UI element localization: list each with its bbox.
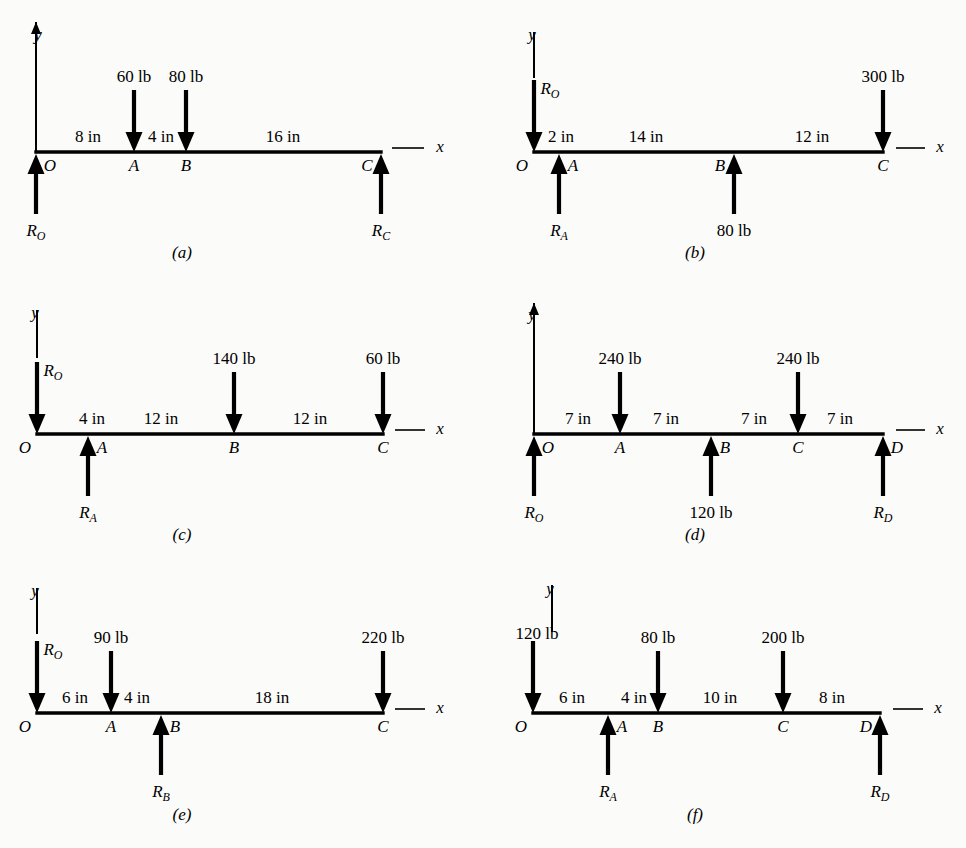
beam-diagrams-svg: yx8 in4 in16 inOABCRO60 lb80 lbRC(a)yx2 …	[0, 0, 966, 848]
point-label-e-A: A	[105, 717, 117, 736]
dimension-label-a-2: 16 in	[266, 127, 301, 146]
force-f-D-label: RD	[869, 782, 889, 804]
panel-e: yx6 in4 in18 inOABCRO90 lbRB220 lb(e)	[19, 581, 444, 824]
x-axis-label-b: x	[935, 137, 944, 156]
force-f-O-head	[525, 693, 542, 713]
force-a-C-label: RC	[371, 221, 391, 243]
force-f-B-label: 80 lb	[641, 628, 675, 647]
force-b-A-label: RA	[549, 221, 568, 243]
force-d-B-head	[703, 436, 720, 456]
dimension-label-c-2: 12 in	[293, 409, 328, 428]
force-e-B-head	[153, 715, 170, 735]
force-d-C-label: 240 lb	[777, 349, 820, 368]
force-b-C-label: 300 lb	[862, 67, 905, 86]
panel-caption-f: (f)	[687, 805, 703, 824]
force-d-C-head	[790, 414, 807, 434]
panel-caption-e: (e)	[173, 805, 192, 824]
x-axis-label-d: x	[935, 419, 944, 438]
point-label-a-A: A	[128, 156, 140, 175]
force-b-A-head	[551, 154, 568, 174]
panel-caption-d: (d)	[685, 525, 705, 544]
y-axis-label-a: y	[32, 25, 42, 44]
point-label-b-C: C	[877, 156, 889, 175]
panel-caption-b: (b)	[685, 243, 705, 262]
force-f-B-head	[650, 693, 667, 713]
point-label-d-B: B	[720, 438, 731, 457]
point-label-c-A: A	[96, 438, 108, 457]
point-label-d-A: A	[614, 438, 626, 457]
force-d-B-label: 120 lb	[690, 503, 733, 522]
force-e-O-head	[29, 693, 46, 713]
force-f-C-label: 200 lb	[762, 628, 805, 647]
point-label-a-B: B	[181, 156, 192, 175]
point-label-e-C: C	[377, 717, 389, 736]
point-label-f-B: B	[653, 717, 664, 736]
force-e-A-head	[103, 693, 120, 713]
dimension-label-e-2: 18 in	[255, 688, 290, 707]
point-label-e-O: O	[19, 717, 31, 736]
force-a-C-head	[373, 154, 390, 174]
force-a-A-label: 60 lb	[117, 67, 151, 86]
force-e-A-label: 90 lb	[94, 628, 128, 647]
dimension-label-a-0: 8 in	[75, 127, 101, 146]
point-label-c-B: B	[229, 438, 240, 457]
panel-caption-a: (a)	[172, 243, 192, 262]
force-c-O-head	[29, 414, 46, 434]
point-label-d-D: D	[890, 438, 904, 457]
panel-d: yx7 in7 in7 in7 inOABCDRO240 lb120 lb240…	[523, 303, 944, 544]
force-a-A-head	[126, 132, 143, 152]
point-label-c-C: C	[377, 438, 389, 457]
force-b-O-head	[526, 132, 543, 152]
point-label-b-O: O	[516, 156, 528, 175]
force-c-A-label: RA	[78, 503, 97, 525]
dimension-label-d-3: 7 in	[827, 409, 853, 428]
x-axis-label-c: x	[435, 419, 444, 438]
point-label-d-O: O	[542, 438, 554, 457]
point-label-a-O: O	[44, 156, 56, 175]
force-e-C-label: 220 lb	[362, 628, 405, 647]
point-label-a-C: C	[361, 156, 373, 175]
dimension-label-b-2: 12 in	[795, 127, 830, 146]
x-axis-label-f: x	[933, 698, 942, 717]
force-d-A-head	[612, 414, 629, 434]
dimension-label-c-1: 12 in	[144, 409, 179, 428]
force-f-D-head	[872, 715, 889, 735]
force-e-O-label: RO	[42, 640, 62, 662]
force-b-O-label: RO	[539, 79, 559, 101]
point-label-f-A: A	[616, 717, 628, 736]
x-axis-label-e: x	[435, 698, 444, 717]
force-c-B-label: 140 lb	[213, 349, 256, 368]
dimension-label-c-0: 4 in	[79, 409, 105, 428]
force-c-A-head	[80, 436, 97, 456]
y-axis-label-b: y	[526, 25, 536, 44]
x-axis-label-a: x	[435, 137, 444, 156]
force-b-B-head	[726, 154, 743, 174]
dimension-label-d-2: 7 in	[741, 409, 767, 428]
force-b-B-label: 80 lb	[717, 221, 751, 240]
y-axis-label-d: y	[526, 305, 536, 324]
point-label-b-B: B	[715, 156, 726, 175]
dimension-label-e-1: 4 in	[124, 688, 150, 707]
dimension-label-f-2: 10 in	[703, 688, 738, 707]
point-label-f-D: D	[859, 717, 873, 736]
point-label-d-C: C	[792, 438, 804, 457]
force-a-B-head	[178, 132, 195, 152]
panel-f: yx6 in4 in10 in8 inOABCD120 lbRA80 lb200…	[515, 579, 942, 824]
force-d-A-label: 240 lb	[599, 349, 642, 368]
force-e-C-head	[375, 693, 392, 713]
force-a-O-label: RO	[25, 221, 45, 243]
point-label-e-B: B	[170, 717, 181, 736]
dimension-label-b-1: 14 in	[629, 127, 664, 146]
point-label-c-O: O	[19, 438, 31, 457]
dimension-label-a-1: 4 in	[148, 127, 174, 146]
force-b-C-head	[875, 132, 892, 152]
y-axis-label-c: y	[29, 303, 39, 322]
force-a-O-head	[28, 154, 45, 174]
force-c-C-head	[375, 414, 392, 434]
panel-b: yx2 in14 in12 inOABCRORA80 lb300 lb(b)	[516, 25, 944, 262]
panel-c: yx4 in12 in12 inOABCRORA140 lb60 lb(c)	[19, 303, 444, 544]
force-f-A-label: RA	[598, 782, 617, 804]
force-a-B-label: 80 lb	[169, 67, 203, 86]
dimension-label-f-3: 8 in	[819, 688, 845, 707]
force-f-O-label: 120 lb	[516, 624, 559, 643]
